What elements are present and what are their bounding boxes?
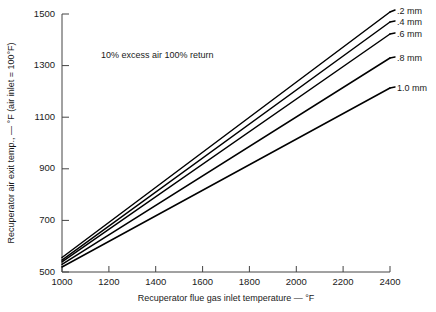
x-tick-label-1000: 1000	[51, 276, 72, 287]
x-tick-label-2400: 2400	[379, 276, 400, 287]
x-tick-label-2200: 2200	[333, 276, 354, 287]
x-tick-label-1800: 1800	[239, 276, 260, 287]
y-tick-label-900: 900	[39, 162, 55, 173]
curve-0-6mm	[62, 34, 390, 262]
series-label-1-0mm: 1.0 mm	[397, 83, 427, 93]
x-tick-label-1200: 1200	[98, 276, 119, 287]
leader-0-8mm	[390, 57, 395, 58]
y-axis-title: Recuperator air exit temp., — °F (air in…	[6, 42, 16, 243]
y-tick-label-1100: 1100	[35, 111, 55, 122]
series-labels: .2 mm .4 mm .6 mm .8 mm 1.0 mm	[390, 6, 427, 93]
x-axis-tick-labels: 1000 1200 1400 1600 1800 2000 2200 2400	[51, 276, 400, 287]
curve-1-0mm	[62, 88, 390, 267]
chart-svg: 1500 1300 1100 900 700 500 1000 1200 140…	[0, 0, 436, 312]
series-label-0-4mm: .4 mm	[397, 17, 422, 27]
curve-0-8mm	[62, 58, 390, 264]
leader-0-6mm	[390, 33, 395, 34]
series-label-0-6mm: .6 mm	[397, 29, 422, 39]
y-axis-ticks	[62, 14, 69, 272]
y-axis-tick-labels: 1500 1300 1100 900 700 500	[34, 8, 55, 277]
y-tick-label-1500: 1500	[34, 8, 55, 19]
chart-annotation: 10% excess air 100% return	[101, 50, 214, 60]
series-label-0-2mm: .2 mm	[397, 6, 422, 16]
x-axis-title: Recuperator flue gas inlet temperature —…	[138, 293, 315, 303]
y-tick-label-500: 500	[39, 266, 55, 277]
curve-0-2mm	[62, 12, 390, 258]
series-label-0-8mm: .8 mm	[397, 53, 422, 63]
x-axis-ticks	[62, 266, 390, 272]
y-tick-label-700: 700	[39, 214, 55, 225]
x-tick-label-1400: 1400	[145, 276, 166, 287]
chart-figure: 1500 1300 1100 900 700 500 1000 1200 140…	[0, 0, 436, 312]
y-tick-label-1300: 1300	[34, 59, 55, 70]
x-tick-label-1600: 1600	[192, 276, 213, 287]
x-tick-label-2000: 2000	[286, 276, 307, 287]
leader-1-0mm	[390, 87, 395, 88]
leader-0-4mm	[390, 21, 395, 22]
leader-0-2mm	[390, 10, 395, 12]
